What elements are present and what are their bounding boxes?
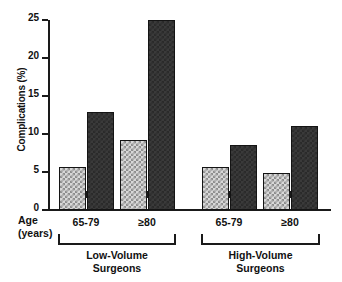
y-axis-label: Complications (%) [16,45,27,175]
group-bracket-0 [58,234,176,245]
bar-light-checkered-1 [120,140,147,210]
group-label-1: High-VolumeSurgeons [229,249,293,275]
y-tick-25: 25 [42,19,48,21]
y-axis-line [48,20,50,210]
bar-light-checkered-0 [59,167,86,210]
y-tick-10: 10 [42,133,48,135]
bar-dark-solid-0 [87,112,114,210]
y-tick-5: 5 [42,171,48,173]
group-label-0-line1: Low-Volume [86,249,148,262]
complications-bar-chart: Complications (%) Age (years) 0510152025… [0,0,342,282]
category-label-3: ≥80 [281,216,298,228]
y-tick-20: 20 [42,57,48,59]
x-tick-2 [228,191,230,198]
category-label-2: 65-79 [216,216,243,228]
y-tick-0: 0 [42,209,48,211]
bar-light-checkered-3 [263,173,290,210]
group-label-0-line2: Surgeons [86,262,148,275]
y-tick-label-5: 5 [33,164,39,175]
x-tick-1 [146,191,148,198]
bar-dark-solid-1 [148,20,175,210]
category-label-0: 65-79 [73,216,100,228]
bar-dark-solid-3 [291,126,318,210]
y-tick-label-15: 15 [28,88,39,99]
bar-dark-solid-2 [230,145,257,210]
plot-area: 0510152025 [48,20,331,210]
group-label-1-line2: Surgeons [229,262,293,275]
category-label-1: ≥80 [138,216,155,228]
group-label-0: Low-VolumeSurgeons [86,249,148,275]
y-tick-label-20: 20 [28,50,39,61]
group-bracket-1 [201,234,320,245]
y-tick-label-10: 10 [28,126,39,137]
y-tick-label-25: 25 [28,12,39,23]
x-axis-caption-line2: (years) [18,227,52,240]
bar-light-checkered-2 [202,167,229,210]
y-tick-15: 15 [42,95,48,97]
group-label-1-line1: High-Volume [229,249,293,262]
x-axis-caption-line1: Age [18,214,52,227]
y-tick-label-0: 0 [33,202,39,213]
x-axis-caption: Age (years) [18,214,52,240]
x-tick-3 [289,191,291,198]
x-tick-0 [85,191,87,198]
